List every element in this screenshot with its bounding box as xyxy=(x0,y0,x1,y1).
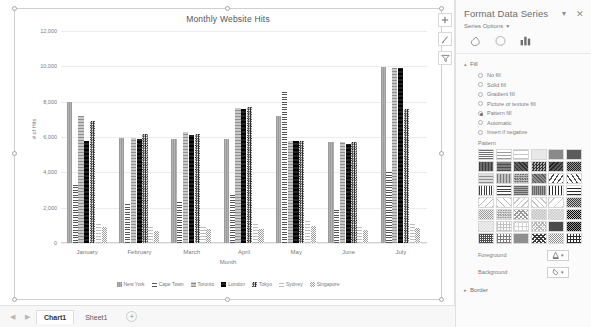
legend-item[interactable]: New York xyxy=(117,281,145,287)
bar[interactable] xyxy=(148,227,153,243)
pattern-swatch[interactable] xyxy=(548,149,564,160)
pattern-swatch[interactable] xyxy=(531,173,547,184)
effects-tab[interactable] xyxy=(493,34,507,47)
radio-button[interactable] xyxy=(478,92,483,97)
bar[interactable] xyxy=(137,139,142,243)
radio-button[interactable] xyxy=(478,130,483,135)
bar[interactable] xyxy=(125,204,130,243)
bar[interactable] xyxy=(288,141,293,243)
background-color-button[interactable]: ▾ xyxy=(547,267,569,278)
bar[interactable] xyxy=(102,227,107,243)
radio-button[interactable] xyxy=(478,73,483,78)
series-options-tab[interactable] xyxy=(518,34,532,47)
pattern-swatch[interactable] xyxy=(478,197,494,208)
pattern-swatch[interactable] xyxy=(531,149,547,160)
chart-object[interactable]: Monthly Website Hits # of Hits 02,0004,0… xyxy=(14,8,442,300)
next-sheet-arrow[interactable]: ▶ xyxy=(21,311,33,323)
pattern-swatch[interactable] xyxy=(566,197,582,208)
resize-handle-top-right[interactable] xyxy=(439,6,444,11)
fill-option-automatic[interactable]: Automatic xyxy=(478,120,583,126)
pattern-swatch[interactable] xyxy=(478,161,494,172)
bar[interactable] xyxy=(67,102,72,243)
bar[interactable] xyxy=(311,226,316,243)
resize-handle-bottom-right[interactable] xyxy=(439,297,444,302)
pattern-swatch[interactable] xyxy=(531,197,547,208)
bar[interactable] xyxy=(398,68,403,243)
bar[interactable] xyxy=(177,201,182,243)
pattern-swatch[interactable] xyxy=(478,185,494,196)
fill-option-invert-if-negative[interactable]: Invert if negative xyxy=(478,129,583,135)
pattern-swatch[interactable] xyxy=(513,149,529,160)
radio-button[interactable] xyxy=(478,82,483,87)
bar[interactable] xyxy=(392,68,397,243)
bar[interactable] xyxy=(282,91,287,243)
bar[interactable] xyxy=(305,221,310,243)
sheet-tab-sheet1[interactable]: Sheet1 xyxy=(77,310,115,324)
pattern-swatch[interactable] xyxy=(513,185,529,196)
pane-close-icon[interactable]: ✕ xyxy=(575,9,585,19)
bar[interactable] xyxy=(235,108,240,243)
resize-handle-middle-right[interactable] xyxy=(439,151,444,156)
radio-button[interactable] xyxy=(478,111,483,116)
chart-title[interactable]: Monthly Website Hits xyxy=(15,14,441,24)
bar[interactable] xyxy=(73,183,78,243)
pattern-swatch[interactable] xyxy=(496,161,512,172)
bar[interactable] xyxy=(206,229,211,243)
fill-option-solid-fill[interactable]: Solid fill xyxy=(478,82,583,88)
pattern-swatch[interactable] xyxy=(513,233,529,244)
bar[interactable] xyxy=(293,141,298,243)
fill-option-gradient-fill[interactable]: Gradient fill xyxy=(478,91,583,97)
y-axis-title[interactable]: # of Hits xyxy=(31,119,37,139)
worksheet-area[interactable]: Monthly Website Hits # of Hits 02,0004,0… xyxy=(0,0,455,305)
resize-handle-bottom-left[interactable] xyxy=(12,297,17,302)
bar[interactable] xyxy=(230,193,235,243)
bar[interactable] xyxy=(96,222,101,243)
bar[interactable] xyxy=(276,116,281,243)
resize-handle-top-left[interactable] xyxy=(12,6,17,11)
pattern-swatch[interactable] xyxy=(548,221,564,232)
bar[interactable] xyxy=(78,116,83,243)
fill-option-no-fill[interactable]: No fill xyxy=(478,72,583,78)
pattern-swatch[interactable] xyxy=(531,185,547,196)
foreground-color-button[interactable]: ▾ xyxy=(547,250,569,261)
pattern-swatch[interactable] xyxy=(548,197,564,208)
pattern-swatch[interactable] xyxy=(478,209,494,220)
pattern-swatch[interactable] xyxy=(496,209,512,220)
legend-item[interactable]: Toronto xyxy=(191,281,215,287)
pattern-swatch[interactable] xyxy=(548,185,564,196)
pattern-swatch[interactable] xyxy=(478,221,494,232)
previous-sheet-arrow[interactable]: ◀ xyxy=(6,311,18,323)
pattern-swatch[interactable] xyxy=(478,233,494,244)
pattern-swatch[interactable] xyxy=(513,221,529,232)
bar[interactable] xyxy=(334,208,339,243)
pattern-swatch[interactable] xyxy=(478,149,494,160)
pattern-swatch[interactable] xyxy=(566,149,582,160)
bar[interactable] xyxy=(183,132,188,243)
pattern-swatch[interactable] xyxy=(566,185,582,196)
bar[interactable] xyxy=(351,142,356,243)
series-options-selector[interactable]: Series Options▼ xyxy=(464,23,583,29)
resize-handle-top-center[interactable] xyxy=(225,6,230,11)
bar[interactable] xyxy=(340,142,345,243)
bar[interactable] xyxy=(189,135,194,243)
bar[interactable] xyxy=(247,107,252,243)
radio-button[interactable] xyxy=(478,120,483,125)
pattern-swatch[interactable] xyxy=(531,221,547,232)
chart-filters-button[interactable] xyxy=(438,51,452,65)
bar[interactable] xyxy=(410,224,415,243)
resize-handle-middle-left[interactable] xyxy=(12,151,17,156)
pattern-swatch[interactable] xyxy=(566,221,582,232)
bar[interactable] xyxy=(224,139,229,243)
chart-legend[interactable]: New YorkCape TownTorontoLondonTokyoSydne… xyxy=(15,281,441,287)
pattern-swatch[interactable] xyxy=(548,173,564,184)
pattern-swatch[interactable] xyxy=(496,149,512,160)
x-axis-title[interactable]: Month xyxy=(15,259,441,265)
radio-button[interactable] xyxy=(478,101,483,106)
pattern-swatch[interactable] xyxy=(496,173,512,184)
bar[interactable] xyxy=(200,225,205,243)
bar[interactable] xyxy=(253,224,258,243)
bar[interactable] xyxy=(90,121,95,243)
bar[interactable] xyxy=(346,144,351,243)
fill-option-pattern-fill[interactable]: Pattern fill xyxy=(478,110,583,116)
bar[interactable] xyxy=(328,142,333,243)
